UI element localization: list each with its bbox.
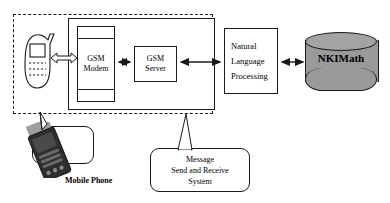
message-system-label: Message Send and Receive System [171, 154, 228, 187]
message-system-callout-tail [178, 114, 192, 151]
modem-top-divider [78, 38, 114, 39]
nlp-label-line2: Language [231, 54, 265, 69]
modem-bottom-divider [78, 89, 114, 90]
diagram-canvas: GSM Modem GSM Server Natural Language Pr… [0, 0, 390, 203]
nlp-label-line1: Natural [231, 39, 257, 54]
mobile-phone-label: Mobile Phone [65, 176, 112, 185]
gsm-server-label: GSM Server [145, 54, 166, 74]
natural-language-processing: Natural Language Processing [224, 28, 278, 94]
gsm-modem-label: GSM Modem [84, 54, 109, 74]
mobile-phone-icon [23, 30, 61, 94]
gsm-server: GSM Server [134, 46, 177, 82]
nkimath-database: NKIMath [305, 32, 377, 90]
nlp-label-line3: Processing [231, 69, 268, 84]
mobile-phone-photo [22, 122, 76, 178]
message-system-callout: Message Send and Receive System [150, 148, 250, 192]
database-cylinder-bottom [305, 68, 377, 91]
gsm-modem: GSM Modem [77, 26, 115, 102]
database-cylinder-top [305, 32, 377, 51]
database-label: NKIMath [305, 52, 377, 64]
